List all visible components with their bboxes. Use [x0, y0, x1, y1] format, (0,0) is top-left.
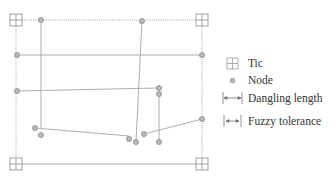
node-marker: [32, 125, 37, 130]
node-marker: [38, 132, 43, 137]
node-marker: [199, 52, 204, 57]
arc-line: [17, 88, 159, 91]
arc-lines: [17, 20, 202, 164]
tic-markers: [10, 14, 208, 170]
node-marker: [156, 85, 161, 90]
legend-label-node: Node: [248, 75, 273, 87]
node-marker: [139, 18, 144, 23]
arc-line: [35, 128, 129, 136]
tic-icon: [227, 58, 238, 69]
node-marker: [133, 139, 138, 144]
node-marker: [141, 131, 146, 136]
node-marker: [14, 52, 19, 57]
node-marker: [156, 91, 161, 96]
arc-line: [136, 21, 142, 142]
arc-line: [144, 119, 202, 134]
tic-marker: [10, 14, 22, 26]
node-marker: [126, 136, 131, 141]
node-marker: [199, 116, 204, 121]
tic-marker: [10, 158, 22, 170]
node-marker: [14, 88, 19, 93]
tic-marker: [196, 14, 208, 26]
node-marker: [38, 17, 43, 22]
fuzzy-tolerance-icon: [224, 115, 241, 127]
dangling-length-icon: [223, 92, 242, 104]
node-marker: [156, 139, 161, 144]
tic-marker: [196, 158, 208, 170]
legend-label-dangling-length: Dangling length: [248, 93, 322, 105]
legend: [223, 58, 242, 127]
legend-label-tic: Tic: [248, 58, 263, 70]
node-icon: [230, 78, 235, 83]
coverage-diagram: [0, 0, 334, 180]
legend-label-fuzzy-tolerance: Fuzzy tolerance: [248, 116, 321, 128]
